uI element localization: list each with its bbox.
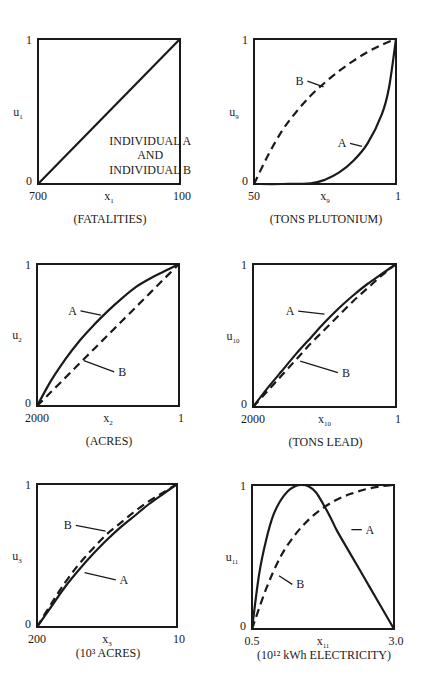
leader-line — [84, 361, 114, 372]
series-b-curve — [254, 39, 396, 184]
y-tick-min: 0 — [241, 397, 247, 411]
x-tick-max: 100 — [173, 189, 191, 203]
series-a-curve — [37, 484, 177, 627]
x-tick-min: 700 — [29, 189, 47, 203]
y-tick-max: 1 — [26, 33, 32, 47]
series-label-b: B — [64, 518, 72, 532]
y-axis-label: u10 — [227, 329, 241, 345]
leader-line — [81, 311, 101, 315]
y-tick-max: 1 — [25, 478, 31, 492]
series-a-curve — [254, 39, 396, 184]
series-label-b: B — [296, 577, 304, 591]
y-axis-label: u3 — [12, 549, 22, 565]
y-axis-label: u9 — [229, 105, 239, 121]
x-tick-min: 2000 — [25, 411, 49, 425]
series-label-b: B — [118, 365, 126, 379]
x-tick-max: 3.0 — [389, 634, 404, 648]
series-label-b: B — [342, 366, 350, 380]
plot-frame — [37, 484, 177, 627]
leader-line — [85, 573, 116, 580]
x-axis-label: x9 — [320, 189, 330, 205]
x-tick-min: 50 — [248, 189, 260, 203]
y-tick-max: 1 — [241, 258, 247, 272]
unit-label: (TONS PLUTONIUM) — [270, 212, 383, 226]
y-tick-min: 0 — [25, 396, 31, 410]
x-tick-max: 1 — [395, 189, 401, 203]
series-a-curve — [252, 485, 394, 629]
x-axis-label: x1 — [104, 189, 114, 205]
chart-u1: 10u1700100x1(FATALITIES)INDIVIDUAL AANDI… — [13, 33, 191, 226]
plot-frame — [253, 264, 396, 407]
annotation-text: INDIVIDUAL B — [109, 163, 191, 177]
chart-u3: 10u320010x3(10³ ACRES)AB — [12, 478, 185, 660]
x-axis-label: x2 — [103, 411, 113, 427]
series-b-curve — [252, 485, 394, 629]
y-axis-label: u2 — [12, 328, 22, 344]
chart-u10: 10u1020001x10(TONS LEAD)AB — [227, 258, 402, 449]
series-b-curve — [253, 264, 396, 407]
y-tick-min: 0 — [25, 617, 31, 631]
leader-line — [279, 576, 292, 585]
series-label-a: A — [68, 304, 77, 318]
y-tick-max: 1 — [240, 479, 246, 493]
y-tick-min: 0 — [26, 174, 32, 188]
leader-line — [298, 311, 324, 314]
plot-frame — [252, 485, 394, 629]
x-tick-max: 1 — [178, 411, 184, 425]
y-axis-label: u1 — [13, 105, 23, 121]
series-label-a: A — [286, 304, 295, 318]
chart-u2: 10u220001x2(ACRES)AB — [12, 258, 184, 448]
chart-u9: 10u9501x9(TONS PLUTONIUM)AB — [229, 33, 401, 226]
y-tick-min: 0 — [240, 619, 246, 633]
leader-line — [300, 361, 338, 372]
plot-frame — [254, 39, 396, 184]
x-axis-label: x10 — [318, 412, 332, 428]
unit-label: (ACRES) — [86, 434, 133, 448]
unit-label: (FATALITIES) — [74, 212, 147, 226]
x-tick-max: 10 — [173, 632, 185, 646]
series-label-b: B — [295, 74, 303, 88]
y-tick-max: 1 — [25, 258, 31, 272]
x-tick-min: 2000 — [241, 412, 265, 426]
unit-label: (10³ ACRES) — [76, 646, 141, 660]
chart-u11: 10u110.53.0x11(10¹² kWh ELECTRICITY)AB — [226, 479, 404, 662]
series-b-curve — [37, 484, 177, 627]
y-axis-label: u11 — [226, 550, 239, 566]
unit-label: (10¹² kWh ELECTRICITY) — [257, 648, 391, 662]
x-tick-min: 0.5 — [245, 634, 260, 648]
figure-canvas: 10u1700100x1(FATALITIES)INDIVIDUAL AANDI… — [0, 0, 422, 697]
y-tick-max: 1 — [242, 33, 248, 47]
leader-line — [76, 525, 106, 531]
annotation-text: AND — [137, 148, 163, 162]
leader-line — [350, 143, 362, 146]
series-label-a: A — [338, 136, 347, 150]
series-b-curve — [37, 264, 179, 406]
series-label-a: A — [366, 523, 375, 537]
series-label-a: A — [119, 573, 128, 587]
x-tick-min: 200 — [28, 632, 46, 646]
x-tick-max: 1 — [395, 412, 401, 426]
annotation-text: INDIVIDUAL A — [109, 134, 191, 148]
leader-line — [307, 81, 323, 87]
y-tick-min: 0 — [242, 174, 248, 188]
unit-label: (TONS LEAD) — [288, 435, 362, 449]
series-a-curve — [253, 264, 396, 407]
